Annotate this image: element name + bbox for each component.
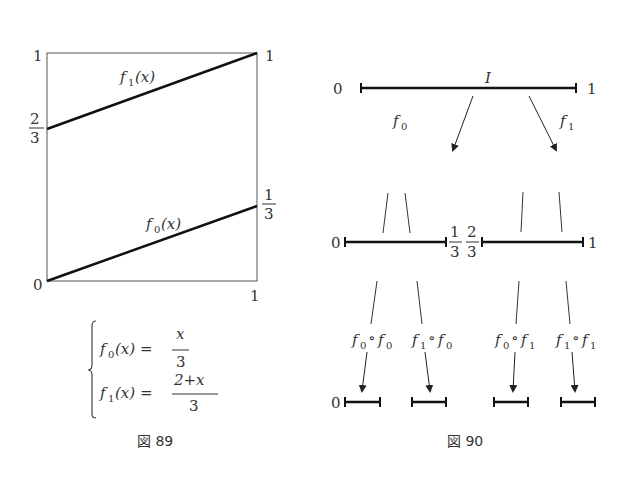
- svg-text:0: 0: [154, 224, 160, 235]
- svg-text:0: 0: [386, 340, 392, 351]
- f1-line: [47, 53, 257, 129]
- two-thirds-num: 2: [467, 223, 477, 241]
- f1-map-label: f: [559, 112, 568, 130]
- f0-map-label: f: [392, 112, 401, 130]
- connector-line: [521, 192, 523, 232]
- f0-line: [47, 206, 257, 281]
- svg-text:∘: ∘: [511, 329, 518, 347]
- one-third-num: 1: [450, 223, 460, 241]
- svg-text:0: 0: [401, 121, 407, 132]
- svg-text:1: 1: [108, 393, 114, 404]
- svg-text:3: 3: [189, 397, 199, 415]
- svg-text:∘: ∘: [428, 329, 435, 347]
- svg-text:0: 0: [108, 349, 114, 360]
- composition-f0-f0: f 0 ∘ f 0: [351, 329, 392, 351]
- svg-text:f: f: [119, 68, 128, 86]
- right-label-1: 1: [265, 47, 275, 65]
- svg-text:0: 0: [446, 340, 452, 351]
- bottom-label-0: 0: [331, 394, 341, 412]
- composition-f0-f1: f 0 ∘ f 1: [494, 329, 535, 351]
- y-label-2-3-num: 2: [30, 110, 40, 128]
- top-label-1: 1: [587, 80, 597, 98]
- composition-f1-f0: f 1 ∘ f 0: [411, 329, 452, 351]
- svg-text:1: 1: [568, 121, 574, 132]
- svg-text:f: f: [145, 215, 154, 233]
- svg-text:∘: ∘: [572, 329, 579, 347]
- y-label-2-3-den: 3: [30, 129, 40, 147]
- svg-text:1: 1: [590, 340, 596, 351]
- svg-text:3: 3: [176, 353, 186, 371]
- figure-89: 1 2 3 0 1 1 1 3 f 1 (x) f 0 (x) f 0 (x) …: [29, 47, 276, 449]
- top-label-0: 0: [333, 80, 343, 98]
- svg-text:(x) =: (x) =: [115, 384, 153, 402]
- left-brace: [88, 321, 96, 418]
- svg-text:∘: ∘: [368, 329, 375, 347]
- svg-text:1: 1: [420, 340, 426, 351]
- unit-square: [47, 53, 257, 281]
- two-thirds-den: 3: [467, 243, 477, 261]
- svg-text:f: f: [555, 331, 564, 349]
- bottom-intervals: [345, 397, 595, 407]
- svg-text:1: 1: [128, 77, 134, 88]
- equation-f1: f 1 (x) = 2+x 3: [99, 371, 218, 415]
- svg-text:f: f: [437, 331, 446, 349]
- y-label-0: 0: [33, 276, 43, 294]
- svg-text:0: 0: [360, 340, 366, 351]
- svg-text:(x) =: (x) =: [115, 340, 153, 358]
- connector-line: [405, 193, 410, 233]
- svg-text:f: f: [581, 331, 590, 349]
- svg-text:f: f: [99, 340, 108, 358]
- y-label-1: 1: [33, 47, 43, 65]
- arrow-f1f1: [572, 352, 575, 391]
- right-label-1-3-den: 3: [264, 205, 274, 223]
- svg-text:(x): (x): [161, 215, 181, 233]
- interval-label-I: I: [484, 69, 492, 87]
- svg-text:(x): (x): [135, 68, 155, 86]
- figure-90-caption: 図 90: [447, 433, 483, 449]
- mid-label-0: 0: [331, 234, 341, 252]
- connector-line: [559, 192, 562, 232]
- x-label-1: 1: [250, 287, 260, 305]
- svg-text:f: f: [99, 384, 108, 402]
- arrow-f0: [453, 96, 473, 150]
- one-third-den: 3: [450, 243, 460, 261]
- svg-text:f: f: [351, 331, 360, 349]
- svg-text:1: 1: [529, 340, 535, 351]
- connector-line: [383, 193, 388, 233]
- figures-canvas: 1 2 3 0 1 1 1 3 f 1 (x) f 0 (x) f 0 (x) …: [0, 0, 623, 481]
- svg-text:2+x: 2+x: [173, 371, 205, 389]
- svg-text:1: 1: [564, 340, 570, 351]
- svg-text:f: f: [494, 331, 503, 349]
- arrow-f1: [529, 96, 556, 150]
- svg-text:f: f: [411, 331, 420, 349]
- composition-f1-f1: f 1 ∘ f 1: [555, 329, 596, 351]
- mid-label-1: 1: [588, 234, 598, 252]
- arrow-f1f0: [425, 352, 430, 391]
- svg-text:f: f: [520, 331, 529, 349]
- arrow-f0f0: [362, 352, 367, 391]
- equation-f0: f 0 (x) = x 3: [99, 325, 189, 371]
- figure-89-caption: 図 89: [137, 433, 173, 449]
- f1-label: f 1 (x): [119, 68, 155, 88]
- svg-text:f: f: [377, 331, 386, 349]
- f0-label: f 0 (x): [145, 215, 181, 235]
- svg-text:0: 0: [503, 340, 509, 351]
- right-label-1-3-num: 1: [264, 186, 274, 204]
- svg-text:x: x: [176, 325, 185, 343]
- arrow-f0f1: [513, 352, 515, 391]
- figure-90: 0 1 I f 0 f 1 0 1 3 2 3 1: [331, 69, 598, 449]
